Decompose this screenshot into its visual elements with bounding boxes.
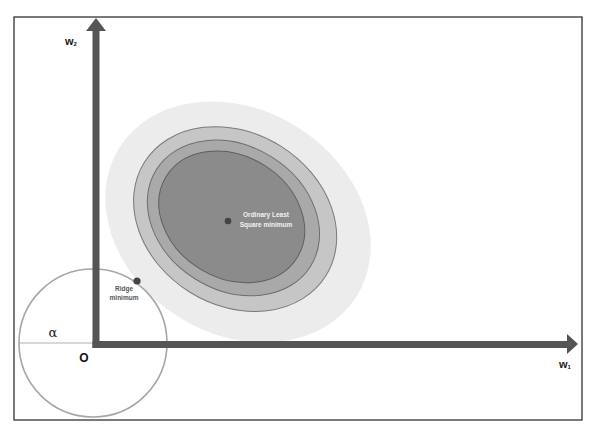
ridge-minimum-point <box>133 277 140 284</box>
ols-label-line2: Square minimum <box>240 221 293 229</box>
ridge-regression-diagram: Ordinary Least Square minimum Ridge mini… <box>0 0 598 437</box>
alpha-label: α <box>49 325 58 340</box>
ols-label-line1: Ordinary Least <box>243 211 290 219</box>
x-axis-label-main: w <box>558 358 568 370</box>
ridge-label-line1: Ridge <box>115 285 133 293</box>
ridge-label-line2: minimum <box>110 294 139 301</box>
y-axis-label-main: w <box>64 35 74 47</box>
ols-minimum-point <box>225 218 232 225</box>
origin-label: O <box>79 351 88 365</box>
